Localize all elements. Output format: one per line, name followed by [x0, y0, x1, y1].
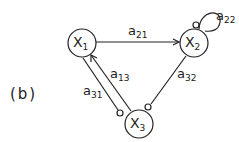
node-x3: X3 — [130, 116, 145, 133]
edge-a13 — [91, 55, 131, 111]
edge-label-a21: a21 — [128, 24, 147, 40]
inhibit-head-a32 — [145, 104, 151, 110]
inhibit-head-a31 — [117, 110, 123, 116]
panel-label: (b) — [10, 87, 37, 102]
edge-label-a22: a22 — [216, 9, 235, 25]
node-x2: X2 — [185, 35, 200, 52]
edge-label-a32: a32 — [177, 67, 196, 83]
edge-label-a13: a13 — [110, 67, 129, 83]
edge-label-a31: a31 — [83, 84, 102, 100]
node-x1: X1 — [73, 35, 88, 52]
inhibit-head-a22 — [193, 22, 199, 28]
